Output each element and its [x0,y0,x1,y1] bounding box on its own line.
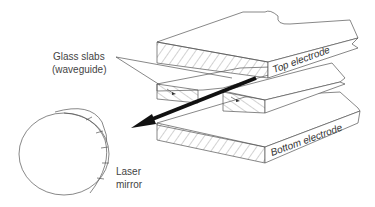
waveguide-laser-diagram: Bottom electrode Top electrode Glass sla… [0,0,375,207]
laser-label: Laser [116,166,142,177]
waveguide-label: (waveguide) [52,64,106,75]
mirror-label: mirror [116,179,143,190]
laser-mirror: Laser mirror [19,109,143,195]
glass-slabs-label: Glass slabs [53,51,105,62]
